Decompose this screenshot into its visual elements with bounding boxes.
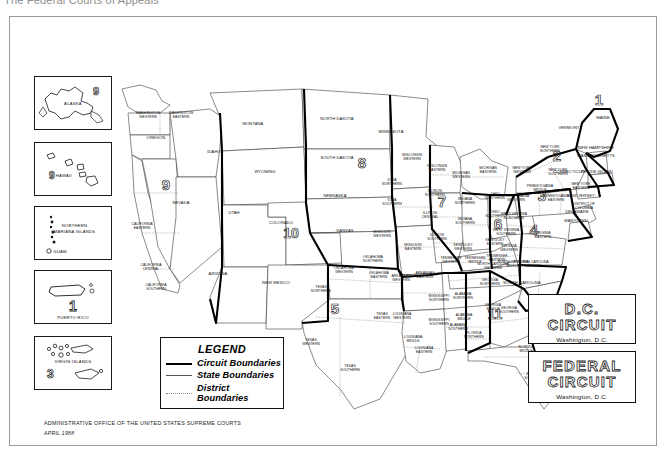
state-label: CALIFORNIAEASTERN: [131, 222, 153, 230]
state-label: VERMONT: [558, 125, 580, 130]
circuit-number-9: 9: [162, 176, 170, 193]
state-label: ILLINOISCENTRAL: [422, 211, 438, 219]
legend-row-state: State Boundaries: [166, 370, 283, 380]
judicial-circuits-map-page: The Federal Courts of Appeals: [0, 0, 665, 453]
legend-key-circuit-line: [166, 359, 192, 367]
credit-block: ADMINISTRATIVE OFFICE OF THE UNITED STAT…: [44, 420, 241, 436]
state-label: KANSAS: [336, 228, 353, 233]
state-label: LOUISIANAWESTERN: [393, 312, 412, 320]
state-label: OKLAHOMAWESTERN: [334, 266, 355, 274]
state-label: OREGON: [147, 135, 166, 140]
inset-virgin-islands-label: VIRGIN ISLANDS: [35, 359, 111, 364]
inset-puerto-rico-circuit: 1: [35, 298, 111, 314]
state-label: NEW JERSEY: [567, 193, 595, 198]
federal-circuit-sub: Washington, D.C.: [529, 393, 635, 400]
state-label: DELAWARE: [565, 209, 589, 214]
inset-mariana-label: NORTHERN MARIANA ISLANDS: [52, 223, 98, 235]
federal-circuit-line1: FEDERAL: [529, 358, 635, 374]
state-label: MISSOURIEASTERN: [404, 243, 421, 251]
inset-virgin-islands: VIRGIN ISLANDS 3: [34, 336, 112, 390]
credit-line-1: ADMINISTRATIVE OFFICE OF THE UNITED STAT…: [44, 420, 241, 426]
circuit-number-6: 6: [494, 215, 502, 232]
state-label: OKLAHOMANORTHERN: [363, 255, 384, 263]
legend-row-district: District Boundaries: [166, 383, 283, 403]
state-label: RHODE ISLAND: [581, 169, 613, 174]
state-label: MISSISSIPPISOUTHERN: [429, 318, 450, 326]
legend-row-circuit: Circuit Boundaries: [166, 358, 283, 368]
state-label: ALABAMANORTHERN: [453, 292, 473, 300]
state-label: CONNECTICUT: [554, 169, 585, 174]
box-federal-circuit: FEDERAL CIRCUIT Washington, D.C.: [528, 351, 636, 403]
circuit-number-11: 11: [488, 306, 503, 322]
state-label: MISSOURIWESTERN: [373, 230, 391, 238]
state-label: ARIZONA: [209, 271, 228, 276]
legend-label-district: District Boundaries: [197, 383, 283, 403]
state-label: NORTH DAKOTA: [320, 116, 354, 121]
hawaii-outline: [35, 143, 111, 195]
state-label: MICHIGANWESTERN: [452, 171, 470, 179]
state-label: WISCONSINWESTERN: [402, 153, 423, 161]
state-label: MONTANA: [243, 121, 264, 126]
legend-key-state-line: [166, 371, 192, 379]
box-dc-circuit: D.C. CIRCUIT Washington, D.C.: [528, 294, 636, 344]
inset-guam-label: GUAM: [53, 249, 91, 254]
dc-circuit-line1: D.C.: [529, 301, 635, 317]
state-label: SOUTH CAROLINA: [503, 280, 541, 285]
state-label: LOUISIANAEASTERN: [415, 346, 434, 354]
circuit-number-1: 1: [595, 91, 603, 108]
state-label: CALIFORNIASOUTHERN: [145, 283, 167, 291]
inset-alaska-label: ALASKA: [35, 101, 111, 106]
state-label: KENTUCKYWESTERN: [453, 243, 473, 251]
state-label: ARKANSASEASTERN: [415, 271, 435, 279]
inset-puerto-rico-label: PUERTO RICO: [35, 315, 111, 320]
legend-label-state: State Boundaries: [197, 370, 274, 380]
inset-alaska-circuit: 9: [93, 85, 99, 97]
state-label: CALIFORNIACENTRAL: [140, 263, 162, 271]
inset-virgin-islands-circuit: 3: [47, 367, 54, 381]
circuit-number-7: 7: [438, 193, 446, 210]
state-label: NEVADA: [172, 200, 189, 205]
state-label: MAINE: [596, 115, 610, 120]
state-label: OKLAHOMAEASTERN: [369, 271, 390, 279]
state-label: NEW YORKWESTERN: [513, 166, 533, 174]
inset-alaska: ALASKA 9: [34, 76, 112, 130]
state-label: IDAHO: [207, 149, 220, 154]
inset-northern-mariana-islands: NORTHERN MARIANA ISLANDS GUAM: [34, 206, 112, 260]
circuit-number-3: 3: [538, 187, 546, 204]
inset-hawaii-label: HAWAII: [41, 173, 87, 178]
dc-circuit-sub: Washington, D.C.: [529, 336, 635, 343]
state-label: MARYLAND: [564, 218, 587, 223]
state-label: UTAH: [228, 210, 239, 215]
state-label: MICHIGANEASTERN: [479, 166, 497, 174]
inset-puerto-rico: 1 PUERTO RICO: [34, 270, 112, 324]
circuit-number-10: 10: [283, 225, 299, 241]
state-label: ALABAMAMIDDLE: [456, 313, 473, 321]
state-label: MINNESOTA: [379, 129, 404, 134]
credit-line-2: APRIL 1988: [44, 430, 241, 436]
state-label: NEW MEXICO: [262, 280, 290, 285]
federal-circuit-line2: CIRCUIT: [529, 374, 635, 390]
state-label: GEORGIANORTHERN: [480, 278, 500, 286]
inset-hawaii: HAWAII 9: [34, 142, 112, 196]
legend: LEGEND Circuit Boundaries State Boundari…: [160, 337, 284, 409]
legend-label-circuit: Circuit Boundaries: [197, 358, 281, 368]
state-label: MASSACHUSETTS: [577, 153, 615, 158]
dc-circuit-line2: CIRCUIT: [529, 317, 635, 333]
state-label: FLORIDANORTHERN: [464, 331, 484, 339]
page-title-clipped: The Federal Courts of Appeals: [4, 0, 404, 8]
state-label: NEW HAMPSHIRE: [578, 145, 614, 150]
circuit-number-5: 5: [331, 300, 339, 317]
state-label: WISCONSINEASTERN: [427, 164, 448, 172]
legend-title: LEGEND: [161, 343, 283, 355]
state-label: WEST VIRGINIANORTHERN: [501, 212, 528, 220]
state-label: NEW YORKEASTERN: [572, 182, 592, 190]
circuit-number-2: 2: [553, 147, 561, 164]
circuit-number-8: 8: [358, 154, 366, 171]
state-label: WYOMING: [254, 169, 275, 174]
legend-key-district-line: [166, 389, 192, 397]
state-label: ALABAMASOUTHERN: [448, 323, 468, 331]
map-frame: WASHINGTONWESTERNWASHINGTONEASTERNOREGON…: [9, 16, 657, 446]
state-label: VIRGINIAWESTERN: [500, 244, 518, 252]
circuit-number-4: 4: [530, 221, 539, 238]
state-label: ARKANSASWESTERN: [391, 274, 411, 282]
